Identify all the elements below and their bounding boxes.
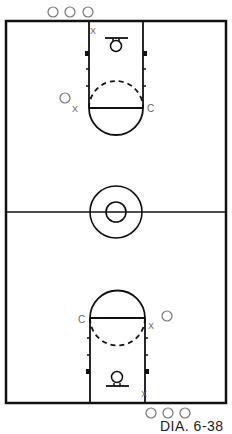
top-free-throw-circle-solid (89, 108, 143, 135)
top-offensive-line (48, 7, 93, 17)
bottom-rim (112, 372, 123, 383)
player-o-icon (83, 7, 93, 17)
player-o-icon (48, 7, 58, 17)
bottom-lane-defender-x: X (141, 389, 147, 399)
player-o-icon (146, 408, 156, 418)
top-rim (111, 41, 122, 52)
bottom-wing-player-o-icon (162, 311, 172, 321)
diagram-caption: DIA. 6-38 (160, 418, 224, 434)
player-o-icon (180, 408, 190, 418)
top-lane-defender-x: X (90, 26, 96, 36)
bottom-free-throw-circle-dashed (90, 318, 145, 345)
top-wing-player-o-icon (60, 93, 70, 103)
bottom-offensive-line (146, 408, 190, 418)
bottom-key (86, 291, 149, 403)
bottom-wing-defender-x: X (148, 321, 154, 331)
bottom-free-throw-circle-solid (90, 291, 145, 318)
player-o-icon (65, 7, 75, 17)
court-diagram: X X C C X X (0, 0, 232, 434)
top-wing-defender-x: X (72, 104, 78, 114)
bottom-center-c: C (78, 314, 85, 325)
top-free-throw-circle-dashed (89, 81, 143, 108)
player-o-icon (163, 408, 173, 418)
top-center-c: C (147, 103, 154, 114)
top-key (85, 21, 147, 135)
